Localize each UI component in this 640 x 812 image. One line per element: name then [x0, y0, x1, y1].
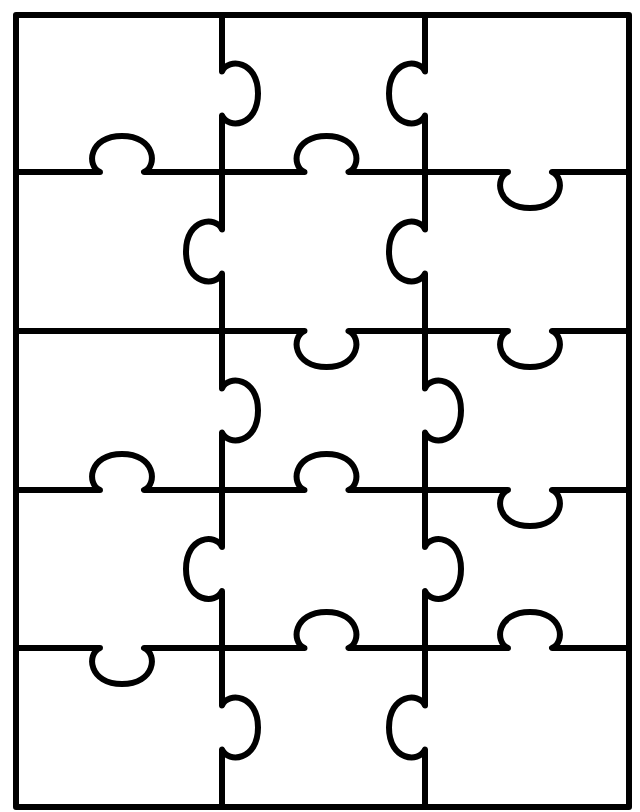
horizontal-cut-line [16, 612, 629, 684]
horizontal-cut-line [16, 454, 629, 526]
horizontal-cut-line [16, 331, 629, 367]
puzzle-template [0, 0, 640, 812]
vertical-cut-line [186, 15, 258, 807]
horizontal-cut-line [16, 136, 629, 208]
vertical-cut-line [389, 15, 461, 807]
puzzle-lines [16, 15, 629, 807]
